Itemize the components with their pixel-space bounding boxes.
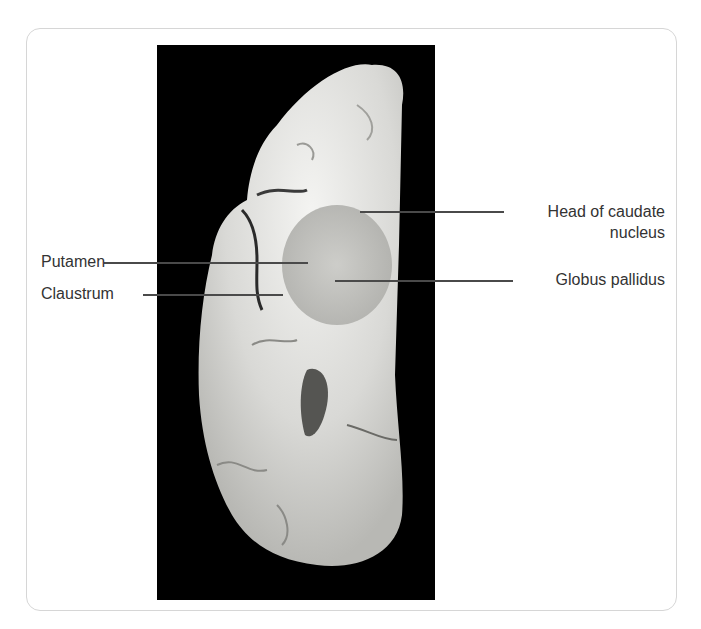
claustrum-leader-line xyxy=(143,294,283,296)
head-of-caudate-label-line2: nucleus xyxy=(548,224,665,242)
putamen-label: Putamen xyxy=(41,253,105,271)
brain-section-illustration xyxy=(157,45,435,600)
head-of-caudate-label: Head of caudate nucleus xyxy=(548,203,665,242)
putamen-leader-line xyxy=(104,262,308,264)
globus-pallidus-leader-line xyxy=(335,280,513,282)
head-of-caudate-leader-line xyxy=(360,211,504,213)
head-of-caudate-label-line1: Head of caudate xyxy=(548,203,665,221)
claustrum-label: Claustrum xyxy=(41,285,114,303)
globus-pallidus-label: Globus pallidus xyxy=(556,271,665,289)
brain-section-photo xyxy=(157,45,435,600)
